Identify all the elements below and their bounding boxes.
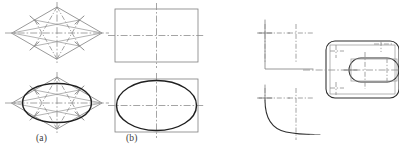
caption-a: (a) bbox=[36, 133, 47, 143]
caption-b: (b) bbox=[126, 133, 138, 143]
figure-canvas: .ink { fill:none; stroke:#2e2e2e; stroke… bbox=[0, 0, 399, 165]
